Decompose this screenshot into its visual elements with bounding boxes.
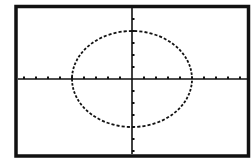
curve-segment <box>119 32 122 33</box>
curve-segment <box>73 67 74 69</box>
curve-segment <box>76 59 77 61</box>
curve-segment <box>73 87 74 90</box>
y-tick <box>132 18 135 20</box>
curve-segment <box>191 68 192 71</box>
curve-segment <box>184 101 186 103</box>
graph-screen <box>0 0 251 162</box>
curve-segment <box>150 33 153 34</box>
y-tick <box>132 102 135 104</box>
x-tick <box>167 77 169 80</box>
curve-segment <box>186 97 187 99</box>
y-tick <box>132 66 135 68</box>
curve-segment <box>114 33 117 34</box>
y-tick <box>132 54 135 56</box>
x-tick <box>143 77 145 80</box>
x-tick <box>239 77 241 80</box>
y-tick <box>132 114 135 116</box>
curve-segment <box>157 121 160 122</box>
y-tick <box>132 138 135 140</box>
x-tick <box>95 77 97 80</box>
curve-segment <box>74 91 75 93</box>
curve-segment <box>189 64 190 66</box>
x-tick <box>203 77 205 80</box>
curve-segment <box>117 125 120 126</box>
curve-segment <box>78 99 79 101</box>
curve-segment <box>107 123 110 124</box>
curve-segment <box>99 37 102 38</box>
x-tick <box>47 77 49 80</box>
curve-segment <box>104 36 107 37</box>
curve-segment <box>155 35 158 36</box>
curve-segment <box>191 85 192 88</box>
x-tick <box>107 77 109 80</box>
x-tick <box>59 77 61 80</box>
x-tick <box>215 77 217 80</box>
curve-segment <box>142 126 145 127</box>
curve-segment <box>187 60 188 62</box>
curve-segment <box>162 119 165 120</box>
curve-segment <box>153 123 156 124</box>
curve-segment <box>188 93 189 95</box>
x-tick <box>23 77 25 80</box>
curve-segment <box>76 95 77 97</box>
curve-segment <box>148 125 151 126</box>
x-tick <box>83 77 85 80</box>
curve-segment <box>145 32 148 33</box>
curve-segment <box>102 121 105 122</box>
y-tick <box>132 150 135 152</box>
curve-segment <box>72 71 73 74</box>
x-tick <box>119 77 121 80</box>
curve-segment <box>75 63 76 65</box>
curve-segment <box>190 89 191 91</box>
curve-segment <box>109 34 112 35</box>
x-tick <box>179 77 181 80</box>
x-tick <box>227 77 229 80</box>
x-tick <box>155 77 157 80</box>
y-tick <box>132 90 135 92</box>
curve-segment <box>112 124 115 125</box>
curve-segment <box>98 118 101 119</box>
y-tick <box>132 42 135 44</box>
x-tick <box>35 77 37 80</box>
curve-segment <box>159 36 162 37</box>
curve-segment <box>79 55 81 57</box>
curve-segment <box>164 38 167 39</box>
curve-segment <box>185 57 186 59</box>
